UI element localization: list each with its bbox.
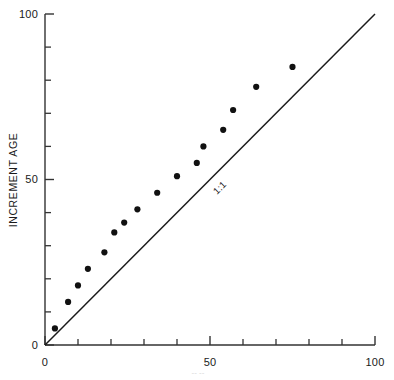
x-tick-label-50: 50 xyxy=(204,356,217,368)
data-point xyxy=(134,206,140,212)
data-point xyxy=(194,160,200,166)
x-axis-ticks xyxy=(45,336,375,345)
data-point xyxy=(111,229,117,235)
data-point xyxy=(75,282,81,288)
cropped-footer-text: -- -- xyxy=(150,368,246,378)
data-point xyxy=(200,143,206,149)
data-point xyxy=(52,325,58,331)
data-point xyxy=(174,173,180,179)
data-point xyxy=(230,107,236,113)
plot-canvas: 100 50 0 0 50 100 INCREMENT AGE 1:1 xyxy=(0,0,394,380)
y-tick-label-0: 0 xyxy=(32,339,38,351)
data-point xyxy=(101,249,107,255)
data-point xyxy=(85,266,91,272)
y-axis-title: INCREMENT AGE xyxy=(7,133,19,228)
y-tick-label-50: 50 xyxy=(25,173,38,185)
x-tick-label-0: 0 xyxy=(42,356,48,368)
y-axis-ticks xyxy=(45,14,54,345)
data-point-group xyxy=(52,64,296,332)
one-to-one-reference-line xyxy=(45,14,375,345)
data-point xyxy=(289,64,295,70)
y-tick-label-100: 100 xyxy=(19,8,38,20)
data-point xyxy=(154,190,160,196)
data-point xyxy=(65,299,71,305)
scatter-plot-figure: 100 50 0 0 50 100 INCREMENT AGE 1:1 xyxy=(0,0,394,380)
reference-line-label: 1:1 xyxy=(211,179,229,197)
x-tick-label-100: 100 xyxy=(366,356,385,368)
data-point xyxy=(121,219,127,225)
data-point xyxy=(253,84,259,90)
data-point xyxy=(220,127,226,133)
